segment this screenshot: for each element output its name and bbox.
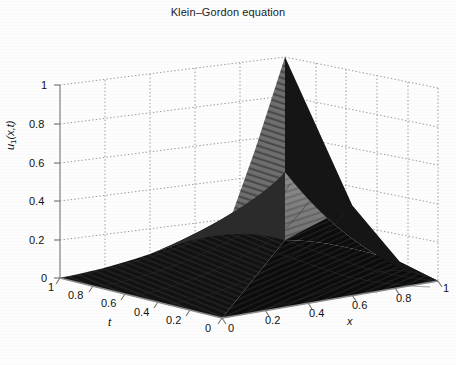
t-tick-0-4: 0.4 [134, 306, 149, 318]
t-axis-label: t [108, 316, 111, 328]
t-tick-0-8: 0.8 [68, 289, 83, 301]
y-tick-1: 1 [41, 79, 47, 91]
x-tick-0: 0 [228, 322, 234, 334]
y-tick-0-2: 0.2 [29, 234, 44, 246]
x-tick-0-4: 0.4 [309, 307, 324, 319]
x-axis-label: x [347, 315, 353, 327]
surface-mesh [60, 57, 438, 318]
x-tick-1: 1 [443, 282, 449, 294]
x-tick-0-2: 0.2 [265, 314, 280, 326]
y-tick-0-4: 0.4 [29, 195, 44, 207]
figure-canvas: Klein–Gordon equation u1(x,t) [0, 0, 456, 365]
t-tick-0: 0 [205, 322, 211, 334]
y-tick-0: 0 [41, 272, 47, 284]
t-tick-0-6: 0.6 [101, 297, 116, 309]
y-tick-0-8: 0.8 [29, 118, 44, 130]
y-tick-0-6: 0.6 [29, 157, 44, 169]
x-tick-0-6: 0.6 [352, 299, 367, 311]
surface-plot [0, 0, 456, 365]
t-tick-1: 1 [48, 281, 54, 293]
x-tick-0-8: 0.8 [396, 292, 411, 304]
t-tick-0-2: 0.2 [166, 314, 181, 326]
